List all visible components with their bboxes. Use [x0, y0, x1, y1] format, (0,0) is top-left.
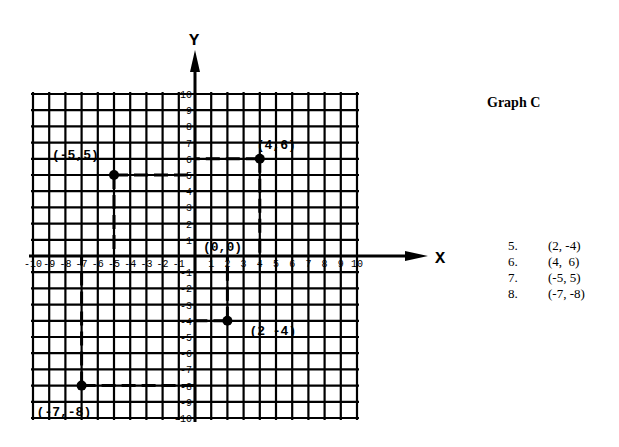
answer-number: 8.	[508, 286, 548, 302]
y-tick-label: -5	[180, 333, 192, 344]
x-tick-label: 3	[241, 259, 247, 270]
coordinate-plane: YX-10-9-8-7-6-5-4-3-2-112345678910-10-9-…	[0, 0, 619, 447]
y-tick-label: -9	[180, 398, 192, 409]
answer-item: 7.(-5, 5)	[508, 270, 585, 286]
data-point	[77, 381, 87, 391]
data-point	[109, 170, 119, 180]
answer-item: 6.(4, 6)	[508, 254, 585, 270]
point-label: (4,6)	[257, 138, 296, 153]
x-tick-label: 4	[257, 259, 263, 270]
data-point	[255, 154, 265, 164]
x-tick-label: 7	[305, 259, 311, 270]
x-tick-label: -4	[124, 259, 136, 270]
y-tick-label: 1	[186, 236, 192, 247]
origin-label: (0,0)	[203, 240, 242, 255]
answer-value: (2, -4)	[548, 238, 581, 254]
x-tick-label: 8	[322, 259, 328, 270]
x-tick-label: -8	[59, 259, 71, 270]
answer-list: 5.(2, -4) 6.(4, 6) 7.(-5, 5) 8.(-7, -8)	[508, 238, 585, 302]
y-tick-label: 9	[186, 106, 192, 117]
y-tick-label: -7	[180, 365, 192, 376]
x-tick-label: -10	[24, 259, 42, 270]
answer-item: 8.(-7, -8)	[508, 286, 585, 302]
y-tick-label: 2	[186, 220, 192, 231]
answer-value: (-7, -8)	[548, 286, 585, 302]
y-tick-label: 6	[186, 155, 192, 166]
y-tick-label: -10	[174, 414, 192, 425]
x-tick-label: -6	[92, 259, 104, 270]
answer-value: (-5, 5)	[548, 270, 581, 286]
point-label: (2 -4)	[249, 324, 296, 339]
point-label: (-5,5)	[52, 148, 99, 163]
answer-number: 5.	[508, 238, 548, 254]
y-axis-arrow-icon	[190, 50, 200, 72]
y-axis-label: Y	[189, 31, 200, 50]
answer-number: 6.	[508, 254, 548, 270]
y-tick-label: -2	[180, 284, 192, 295]
x-tick-label: 6	[289, 259, 295, 270]
answer-item: 5.(2, -4)	[508, 238, 585, 254]
x-axis-label: X	[435, 249, 446, 268]
data-point	[222, 316, 232, 326]
x-axis-arrow-icon	[405, 251, 428, 261]
x-tick-label: 9	[338, 259, 344, 270]
y-tick-label: -6	[180, 349, 192, 360]
x-tick-label: 5	[273, 259, 279, 270]
y-tick-label: -4	[180, 317, 192, 328]
x-tick-label: -5	[108, 259, 120, 270]
point-label: (-7,-8)	[37, 405, 92, 420]
x-tick-label: 10	[351, 259, 363, 270]
y-tick-label: 3	[186, 203, 192, 214]
answer-value: (4, 6)	[548, 254, 579, 270]
x-tick-label: -3	[140, 259, 152, 270]
y-tick-label: -1	[180, 268, 192, 279]
y-tick-label: 7	[186, 139, 192, 150]
y-tick-label: -3	[180, 301, 192, 312]
y-tick-label: 8	[186, 122, 192, 133]
x-tick-label: 1	[208, 259, 214, 270]
graph-title: Graph C	[487, 95, 540, 111]
answer-number: 7.	[508, 270, 548, 286]
x-tick-label: -9	[43, 259, 55, 270]
x-tick-label: -2	[157, 259, 169, 270]
y-tick-label: 4	[186, 187, 192, 198]
y-tick-label: 10	[180, 90, 192, 101]
